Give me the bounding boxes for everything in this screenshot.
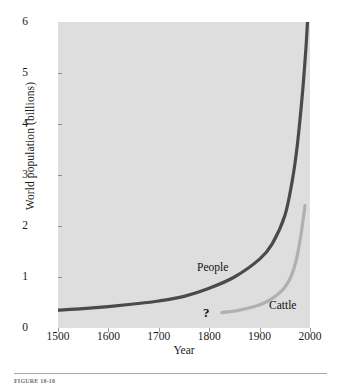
y-tick-mark-2 bbox=[58, 226, 62, 227]
chart-svg bbox=[58, 22, 310, 328]
y-tick-label-3: 3 bbox=[8, 169, 28, 181]
population-figure: World population (billions) Year 0123456… bbox=[0, 0, 341, 384]
figure-caption: FIGURE 18-18 bbox=[14, 378, 55, 384]
x-tick-mark-1800 bbox=[209, 328, 210, 332]
series-curve-people bbox=[58, 22, 307, 310]
series-label-cattle: Cattle bbox=[269, 299, 296, 311]
y-axis-title: World population (billions) bbox=[24, 0, 36, 296]
series-label-people: People bbox=[197, 261, 228, 273]
caption-divider bbox=[14, 373, 327, 374]
y-tick-label-1: 1 bbox=[8, 271, 28, 283]
y-tick-mark-5 bbox=[58, 73, 62, 74]
y-tick-label-4: 4 bbox=[8, 118, 28, 130]
y-tick-label-0: 0 bbox=[8, 322, 28, 334]
y-tick-label-2: 2 bbox=[8, 220, 28, 232]
series-curve-cattle bbox=[222, 206, 305, 313]
x-tick-mark-1900 bbox=[260, 328, 261, 332]
x-tick-mark-1500 bbox=[58, 328, 59, 332]
y-tick-mark-4 bbox=[58, 124, 62, 125]
x-tick-mark-1700 bbox=[159, 328, 160, 332]
x-tick-mark-1600 bbox=[108, 328, 109, 332]
y-tick-mark-3 bbox=[58, 175, 62, 176]
y-tick-label-5: 5 bbox=[8, 67, 28, 79]
y-tick-mark-1 bbox=[58, 277, 62, 278]
unknown-data-marker: ? bbox=[203, 305, 210, 321]
x-axis-title: Year bbox=[58, 344, 310, 356]
x-tick-mark-2000 bbox=[310, 328, 311, 332]
y-tick-label-6: 6 bbox=[8, 16, 28, 28]
chart-plot-area bbox=[58, 22, 310, 328]
